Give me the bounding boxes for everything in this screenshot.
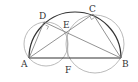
label-e: E — [63, 20, 70, 30]
label-b: B — [122, 59, 129, 69]
right-angle-mark-c — [90, 17, 95, 20]
diagram-svg: A B C D E F — [0, 0, 138, 82]
label-d: D — [39, 11, 46, 21]
geometry-diagram: A B C D E F — [0, 0, 138, 82]
right-angle-mark-d — [46, 25, 49, 30]
aux-circle-bcef — [66, 15, 124, 73]
label-a: A — [20, 59, 28, 69]
label-f: F — [65, 65, 71, 75]
segment-ef — [67, 33, 68, 58]
label-c: C — [89, 4, 96, 14]
